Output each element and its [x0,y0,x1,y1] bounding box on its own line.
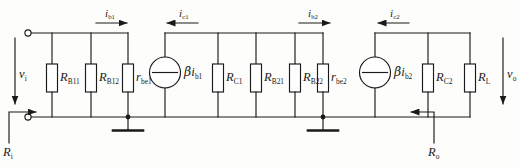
label-ib1: ib1 [105,8,115,19]
label-vo: vo [507,68,516,81]
junction-dot-ground2 [321,115,326,120]
resistor-rb21 [251,64,262,92]
label-rc1: RC1 [226,71,242,84]
junction-dot-ground1 [126,115,131,120]
label-rl: RL [478,71,490,84]
resistor-rb12 [86,64,97,92]
label-beta-ib1: βib1 [184,66,202,79]
label-ri: Ri [3,146,13,159]
label-rbe1: rbe1 [136,71,152,84]
label-vi: vi [19,68,27,81]
resistor-rc2 [423,64,434,92]
resistor-rb22 [290,64,301,92]
resistor-rl [465,64,476,92]
label-ic2: ic2 [390,8,400,19]
label-rb21: RB21 [264,71,284,84]
label-rc2: RC2 [436,71,452,84]
input-terminal-bottom [25,114,31,120]
label-rb12: RB12 [99,71,119,84]
circuit-diagram: vi Ri RB11 RB12 rbe1 βib1 RC1 RB21 RB22 … [0,0,519,167]
label-rb22: RB22 [303,71,323,84]
label-beta-ib2: βib2 [394,66,412,79]
label-rb11: RB11 [60,71,80,84]
label-ic1: ic1 [179,8,189,19]
resistor-rc1 [213,64,224,92]
label-rbe2: rbe2 [331,71,347,84]
resistor-rbe1 [123,64,134,92]
label-ib2: ib2 [308,8,318,19]
input-terminal-top [25,30,31,36]
resistor-rb11 [47,64,58,92]
label-ro: Ro [428,146,439,159]
